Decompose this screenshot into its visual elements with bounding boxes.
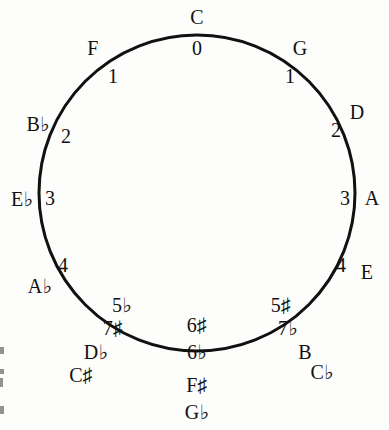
accidentals-6-flat: 6♭	[187, 342, 207, 362]
accidentals-4-sharp: 4	[336, 255, 346, 275]
key-g-flat: G♭	[185, 402, 209, 422]
edge-artifact	[0, 347, 4, 354]
accidentals-2-flat: 2	[61, 126, 71, 146]
edge-artifact	[0, 369, 4, 374]
accidentals-0: 0	[192, 38, 202, 58]
accidentals-1-sharp: 1	[285, 66, 295, 86]
key-b-flat: B♭	[26, 114, 49, 134]
key-d-flat: D♭	[84, 342, 108, 362]
accidentals-3-flat: 3	[45, 188, 55, 208]
key-g: G	[293, 38, 308, 58]
circle-of-fifths-diagram: CGDAEBC♭F♯G♭D♭C♯A♭E♭B♭F 012345♯7♭6♯6♭5♭7…	[0, 0, 389, 430]
key-c-sharp: C♯	[69, 365, 93, 385]
key-b: B	[298, 342, 312, 362]
edge-artifact	[0, 378, 3, 387]
key-f-sharp: F♯	[186, 375, 208, 395]
key-a: A	[365, 188, 380, 208]
accidentals-7-sharp: 7♯	[103, 318, 123, 338]
key-a-flat: A♭	[28, 276, 52, 296]
accidentals-6-sharp: 6♯	[187, 315, 207, 335]
key-e-flat: E♭	[11, 189, 33, 209]
key-e: E	[361, 262, 373, 282]
key-c-flat: C♭	[310, 362, 333, 382]
accidentals-1-flat: 1	[108, 66, 118, 86]
accidentals-2-sharp: 2	[331, 120, 341, 140]
fifths-circle	[39, 35, 355, 351]
edge-artifact	[0, 406, 4, 414]
key-c: C	[190, 7, 204, 27]
accidentals-5-flat: 5♭	[112, 295, 132, 315]
key-f: F	[87, 38, 98, 58]
accidentals-5-sharp: 5♯	[271, 295, 291, 315]
accidentals-4-flat: 4	[58, 255, 68, 275]
accidentals-3-sharp: 3	[340, 188, 350, 208]
key-d: D	[350, 102, 365, 122]
accidentals-7-flat: 7♭	[278, 318, 298, 338]
